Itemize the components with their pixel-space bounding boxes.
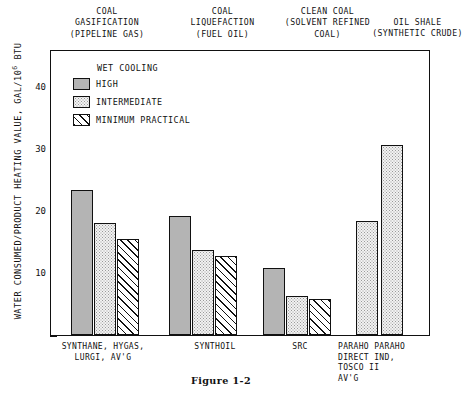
bar-group4-paraho-direct (356, 221, 378, 335)
legend-swatch-minimum-practical (73, 114, 90, 126)
y-tick-label-20: 20 (22, 207, 46, 216)
legend: WET COOLING HIGH INTERMEDIATE MINIMUM PR… (73, 63, 303, 130)
legend-label-minimum-practical: MINIMUM PRACTICAL (96, 115, 190, 125)
legend-item-high: HIGH (73, 76, 303, 92)
bar-group2-high (169, 216, 191, 335)
bar-group4-paraho-ind (381, 145, 403, 335)
legend-label-high: HIGH (96, 79, 118, 89)
bar-group3-minimum (309, 299, 331, 335)
y-tick-0 (50, 336, 57, 337)
y-tick-label-10: 10 (22, 269, 46, 278)
legend-swatch-intermediate (73, 96, 90, 108)
legend-item-intermediate: INTERMEDIATE (73, 94, 303, 110)
x-label-group1: SYNTHANE, HYGAS, LURGI, AV'G (38, 342, 168, 363)
group-header-coal-gasification: COAL GASIFICATION (PIPELINE GAS) (42, 6, 172, 40)
bar-group1-minimum (117, 239, 139, 335)
group-headers: COAL GASIFICATION (PIPELINE GAS) COAL LI… (50, 2, 430, 48)
y-tick-label-30: 30 (22, 145, 46, 154)
bar-group1-intermediate (94, 223, 116, 335)
bar-group3-high (263, 268, 285, 335)
legend-item-minimum-practical: MINIMUM PRACTICAL (73, 112, 303, 128)
legend-swatch-high (73, 78, 90, 90)
y-tick-labels: 10 20 30 40 (18, 0, 46, 395)
bar-group3-intermediate (286, 296, 308, 335)
bar-group2-intermediate (192, 250, 214, 335)
bar-group1-high (71, 190, 93, 335)
bar-group2-minimum (215, 256, 237, 335)
plot-inner: WET COOLING HIGH INTERMEDIATE MINIMUM PR… (51, 51, 429, 335)
legend-label-intermediate: INTERMEDIATE (96, 97, 163, 107)
y-tick-label-40: 40 (22, 83, 46, 92)
figure-caption: Figure 1-2 (0, 375, 442, 386)
plot-area: WET COOLING HIGH INTERMEDIATE MINIMUM PR… (50, 50, 430, 336)
x-tick-labels: SYNTHANE, HYGAS, LURGI, AV'G SYNTHOIL SR… (50, 340, 430, 380)
group-header-oil-shale: OIL SHALE (SYNTHETIC CRUDE) (350, 17, 466, 40)
legend-title: WET COOLING (97, 63, 303, 73)
